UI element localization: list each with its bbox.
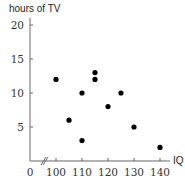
y-tick-label: 20 (11, 19, 24, 31)
data-point (92, 70, 97, 75)
data-point (131, 124, 136, 129)
y-tick-label: 10 (11, 87, 24, 99)
data-point (79, 138, 84, 143)
data-point (53, 77, 58, 82)
data-point (105, 104, 110, 109)
x-tick-label: 140 (150, 166, 170, 178)
x-tick-label: 100 (46, 166, 66, 178)
data-points (53, 70, 162, 150)
y-tick-label: 5 (17, 121, 24, 133)
x-axis-label: IQ (173, 155, 184, 166)
data-point (66, 118, 71, 123)
data-point (79, 90, 84, 95)
x-tick-label: 120 (98, 166, 118, 178)
scatter-chart: 20 15 10 5 hours of TV 0 100 110 120 130… (0, 0, 185, 186)
data-point (157, 145, 162, 150)
y-tick-label: 15 (11, 53, 24, 65)
y-axis: 20 15 10 5 hours of TV (9, 3, 61, 161)
data-point (118, 90, 123, 95)
x-axis: 0 100 110 120 130 140 IQ (27, 155, 184, 178)
x-tick-label: 130 (124, 166, 144, 178)
x-tick-label: 0 (27, 166, 34, 178)
y-axis-label: hours of TV (9, 3, 61, 14)
x-tick-label: 110 (72, 166, 92, 178)
data-point (92, 77, 97, 82)
